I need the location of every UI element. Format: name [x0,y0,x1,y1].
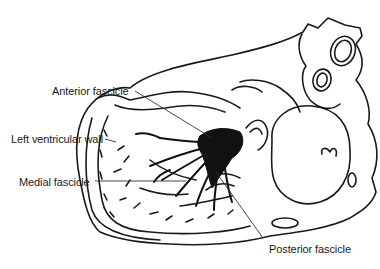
label-left-ventricular-wall: Left ventricular wall [11,133,103,145]
heart-diagram: Anterior fascicle Left ventricular wall … [0,0,380,269]
label-anterior-fascicle: Anterior fascicle [52,85,129,97]
leader-anterior [135,91,212,138]
great-vessel-upper [327,33,360,69]
label-medial-fascicle: Medial fascicle [19,176,90,188]
label-posterior-fascicle: Posterior fascicle [269,243,351,255]
great-vessel-lower [310,67,333,93]
right-chamber [272,106,351,204]
leader-lv-wall [105,139,116,142]
